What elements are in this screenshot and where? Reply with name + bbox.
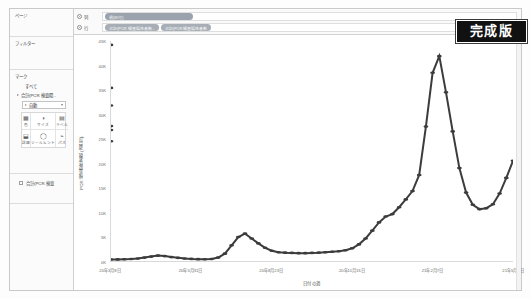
shelf-rows-label: 行 xyxy=(84,25,102,31)
marks-button-size[interactable]: ◑ サイズ xyxy=(31,113,56,130)
pages-title: ページ xyxy=(15,12,69,19)
pill-sum-pcr-positive-1[interactable]: 合計(PCR 検査陽性者数... xyxy=(105,24,159,31)
pill-week-of-date[interactable]: 週(日付) xyxy=(105,13,193,20)
marks-button-path[interactable]: ⌁ パス xyxy=(56,130,68,147)
shelf-container: 列 週(日付) 行 合計(PCR 検査陽性者数... 合計(PCR 検査陽性者数 xyxy=(74,9,521,35)
tooltip-icon: ◯ xyxy=(40,133,47,139)
marks-all-item[interactable]: すべて xyxy=(15,80,69,91)
marks-button-detail-label: 詳細 xyxy=(22,140,30,145)
color-icon: ▦ xyxy=(23,115,29,121)
chevron-right-icon xyxy=(17,94,19,96)
chevron-right-small-icon xyxy=(25,104,27,106)
x-tick-label: 20年8月23日 xyxy=(259,267,283,273)
path-icon: ⌁ xyxy=(60,133,64,139)
sidebar-section-marks: マーク すべて 合計(PCR 検査陽... 自動 ▦ 色 xyxy=(10,70,73,174)
y-tick-label: 35K xyxy=(99,88,106,93)
sidebar-section-pages: ページ xyxy=(10,9,73,37)
label-icon: ▤ xyxy=(59,115,65,121)
plot-canvas[interactable] xyxy=(110,41,513,262)
app-root: ページ フィルター マーク すべて 合計(PCR 検査陽... 自動 xyxy=(0,0,531,299)
vertical-scrollbar[interactable] xyxy=(516,35,521,290)
marks-button-color[interactable]: ▦ 色 xyxy=(22,113,31,130)
sidebar-section-field: 合計(PCR 検査 xyxy=(10,174,73,204)
sidebar-section-filters: フィルター xyxy=(10,37,73,70)
x-tick-label: 20年5月31日 xyxy=(179,267,203,273)
x-tick-label: 20年11月15日 xyxy=(339,267,365,273)
columns-icon xyxy=(77,14,82,19)
chart-area: PCR 検査陽性者数 (週合計) 0K5K10K15K20K25K30K35K4… xyxy=(74,35,521,290)
shelf-rows: 行 合計(PCR 検査陽性者数... 合計(PCR 検査陽性者数 xyxy=(74,22,521,33)
marks-measure-label: 合計(PCR 検査陽... xyxy=(21,92,56,98)
y-tick-label: 45K xyxy=(99,39,106,44)
x-axis-tick-labels: 20年3月8日20年5月31日20年8月23日20年11月15日21年2月7日2… xyxy=(110,266,513,276)
y-tick-label: 15K xyxy=(99,186,106,191)
shelf-columns: 列 週(日付) xyxy=(74,11,521,22)
marks-title: マーク xyxy=(15,73,69,80)
x-axis-title: 日付 の週 xyxy=(110,280,513,286)
x-tick-label: 21年2月7日 xyxy=(422,267,443,273)
field-item[interactable]: 合計(PCR 検査 xyxy=(15,180,69,186)
status-badge: 完成版 xyxy=(456,20,528,43)
mark-type-value: 自動 xyxy=(29,102,37,108)
marks-button-detail[interactable]: ⬓ 詳細 xyxy=(22,130,31,147)
mark-type-dropdown[interactable]: 自動 xyxy=(22,101,66,109)
size-icon: ◑ xyxy=(41,115,45,121)
plot-wrapper: PCR 検査陽性者数 (週合計) 0K5K10K15K20K25K30K35K4… xyxy=(74,35,515,290)
field-item-label: 合計(PCR 検査 xyxy=(26,180,54,186)
x-tick-label: 20年3月8日 xyxy=(99,267,120,273)
y-tick-label: 40K xyxy=(99,63,106,68)
marks-button-label-label: ラベル xyxy=(56,122,68,127)
detail-icon: ⬓ xyxy=(23,133,29,139)
y-tick-label: 30K xyxy=(99,112,106,117)
pill-sum-pcr-positive-2[interactable]: 合計(PCR 検査陽性者数 xyxy=(161,24,212,31)
checkbox-icon[interactable] xyxy=(19,181,23,185)
y-axis-title: PCR 検査陽性者数 (週合計) xyxy=(79,136,85,190)
chevron-down-icon xyxy=(61,104,63,106)
y-tick-label: 5K xyxy=(101,235,106,240)
line-series xyxy=(111,41,513,261)
y-tick-label: 0K xyxy=(101,260,106,265)
shelf-columns-label: 列 xyxy=(84,14,102,20)
filters-title: フィルター xyxy=(15,40,69,47)
marks-card-buttons: ▦ 色 ◑ サイズ ▤ ラベル ⬓ 詳細 xyxy=(21,112,66,148)
marks-measure-row[interactable]: 合計(PCR 検査陽... xyxy=(15,91,69,99)
y-tick-label: 10K xyxy=(99,210,106,215)
y-tick-label: 25K xyxy=(99,137,106,142)
sidebar: ページ フィルター マーク すべて 合計(PCR 検査陽... 自動 xyxy=(10,9,74,290)
rows-icon xyxy=(77,25,82,30)
marks-button-color-label: 色 xyxy=(24,122,28,127)
marks-button-tooltip-label: ツールヒント xyxy=(31,140,55,145)
worksheet-window: ページ フィルター マーク すべて 合計(PCR 検査陽... 自動 xyxy=(9,8,522,291)
marks-button-label[interactable]: ▤ ラベル xyxy=(56,113,68,130)
y-axis-tick-labels: 0K5K10K15K20K25K30K35K40K45K xyxy=(86,35,108,262)
marks-button-size-label: サイズ xyxy=(37,122,49,127)
marks-button-tooltip[interactable]: ◯ ツールヒント xyxy=(31,130,56,147)
y-tick-label: 20K xyxy=(99,161,106,166)
marks-button-path-label: パス xyxy=(58,140,66,145)
